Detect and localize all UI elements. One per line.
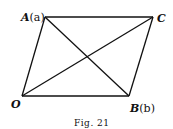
label-O: O bbox=[11, 98, 21, 111]
diagonal-AB bbox=[45, 17, 129, 96]
label-A: A(a) bbox=[20, 11, 45, 24]
label-C: C bbox=[157, 12, 166, 25]
parallelogram-diagram: A(a) C O B(b) Fig. 21 bbox=[0, 0, 173, 129]
figure-caption: Fig. 21 bbox=[74, 118, 110, 128]
label-B: B(b) bbox=[129, 102, 155, 115]
